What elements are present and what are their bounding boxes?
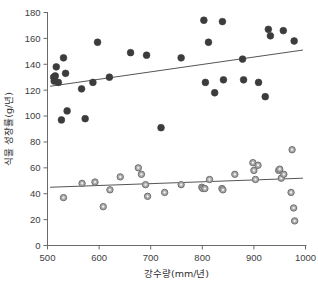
data-point-dark-series [267,32,274,39]
data-point-highlight [208,178,210,180]
data-point-dark-series [255,79,262,86]
x-tick-label: 600 [91,252,107,263]
x-tick-label: 700 [143,252,159,263]
data-point-highlight [222,189,224,191]
data-point-highlight [146,195,148,197]
data-point-highlight [102,206,104,208]
x-tick-label: 900 [246,252,262,263]
data-point-dark-series [262,93,269,100]
data-point-dark-series [90,79,97,86]
data-point-highlight [137,167,139,169]
data-point-highlight [294,220,296,222]
data-point-highlight [252,162,254,164]
data-point-dark-series [64,107,71,114]
data-point-dark-series [58,117,65,124]
data-point-dark-series [219,18,226,25]
data-point-dark-series [205,39,212,46]
y-tick-label: 180 [25,7,41,18]
data-point-highlight [292,207,294,209]
y-tick-label: 100 [25,110,41,121]
data-point-dark-series [127,49,134,56]
y-tick-label: 40 [30,188,41,199]
data-point-dark-series [143,52,150,59]
data-point-dark-series [291,38,298,45]
data-point-dark-series [239,56,246,63]
data-point-dark-series [178,54,185,61]
data-point-dark-series [240,76,247,83]
y-tick-label: 120 [25,85,41,96]
data-point-dark-series [94,39,101,46]
data-point-dark-series [60,54,67,61]
data-point-dark-series [265,26,272,33]
y-tick-label: 60 [30,162,41,173]
data-point-highlight [140,173,142,175]
chart-canvas: 0204060801001201401601805006007008009001… [0,0,318,291]
data-point-dark-series [202,79,209,86]
data-point-highlight [204,187,206,189]
scatter-chart: 0204060801001201401601805006007008009001… [0,0,318,291]
data-point-dark-series [280,27,287,34]
data-point-highlight [254,178,256,180]
y-tick-label: 20 [30,214,41,225]
data-point-dark-series [52,73,59,80]
data-point-highlight [81,182,83,184]
data-point-highlight [144,184,146,186]
data-point-dark-series [78,85,85,92]
data-point-dark-series [53,63,60,70]
fit-line-light-series [50,178,303,187]
data-point-highlight [291,149,293,151]
x-tick-label: 1000 [295,252,316,263]
x-tick-label: 500 [40,252,56,263]
y-tick-label: 80 [30,136,41,147]
data-point-highlight [94,181,96,183]
data-point-highlight [283,173,285,175]
data-point-highlight [119,176,121,178]
x-tick-label: 800 [194,252,210,263]
data-point-highlight [180,184,182,186]
data-point-highlight [234,173,236,175]
data-point-dark-series [200,17,207,24]
y-tick-label: 160 [25,33,41,44]
data-point-highlight [279,168,281,170]
x-axis-title: 강수량(mm/년) [144,268,209,279]
data-point-highlight [163,191,165,193]
y-axis-title: 식물 성장률(g/년) [3,92,14,166]
data-point-highlight [290,191,292,193]
data-point-dark-series [106,74,113,81]
y-tick-label: 140 [25,59,41,70]
data-point-dark-series [158,124,165,131]
data-point-dark-series [82,115,89,122]
fit-line-dark-series [50,50,303,86]
y-tick-label: 0 [35,240,40,251]
data-point-dark-series [220,76,227,83]
data-point-highlight [109,189,111,191]
data-point-dark-series [211,89,218,96]
data-point-highlight [253,169,255,171]
data-point-dark-series [55,79,62,86]
data-point-highlight [62,196,64,198]
data-point-highlight [257,164,259,166]
data-point-dark-series [62,70,69,77]
